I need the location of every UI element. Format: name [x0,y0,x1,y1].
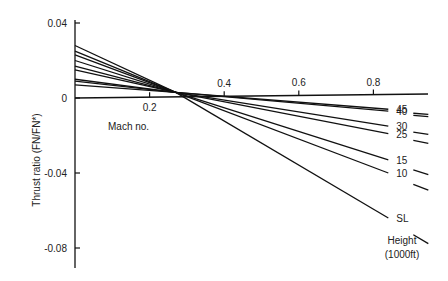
series-line-15 [176,92,389,160]
y-tick-label: 0 [61,93,67,104]
x-tick-label: 0.6 [292,77,306,88]
y-tick-label: 0.04 [48,18,68,29]
series-line-25 [176,92,389,133]
series-label-25: 25 [396,129,408,140]
series-continuation-40 [413,115,428,116]
y-tick-label: -0.04 [44,168,67,179]
series-line-segment [75,61,176,93]
x-tick-label: 0.4 [217,78,231,89]
x-axis [75,94,428,98]
series-continuation-25 [413,140,428,143]
series-line-30 [176,92,389,126]
series-label-10: 10 [396,168,408,179]
series-continuation-45 [413,113,428,114]
series-label-15: 15 [396,155,408,166]
series-continuation-10 [413,184,428,190]
y-axis-label: Thrust ratio (FN/FN*) [31,113,42,206]
x-tick-label: 0.8 [366,77,380,88]
thrust-ratio-chart: 0.040-0.04-0.08 0.20.40.60.8 45403025151… [0,0,448,281]
legend-title-line1: Height [388,235,417,246]
series-label-40: 40 [396,106,408,117]
x-axis-label: Mach no. [108,121,149,132]
x-tick-label: 0.2 [143,102,157,113]
y-tick-label: -0.08 [44,243,67,254]
series-continuation-30 [413,132,428,134]
legend-title-line2: (1000ft) [385,249,419,260]
series-line-SL [176,92,389,218]
series-continuation-15 [413,170,428,175]
axes [75,20,428,268]
series-line-10 [176,92,389,173]
series-labels: 454030251510SL [396,104,428,243]
series-label-SL: SL [396,213,409,224]
